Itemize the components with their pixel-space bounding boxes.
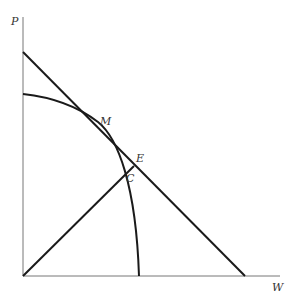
- frontier-curve: [23, 94, 139, 276]
- point-c-label: C: [126, 173, 134, 184]
- point-e-label: E: [136, 153, 144, 164]
- diagram-svg: [0, 0, 304, 304]
- diagram-canvas: P W M E C: [0, 0, 304, 304]
- origin-ray: [23, 166, 134, 276]
- x-axis-label: W: [272, 282, 283, 293]
- point-m-label: M: [100, 116, 111, 127]
- y-axis-label: P: [11, 16, 18, 27]
